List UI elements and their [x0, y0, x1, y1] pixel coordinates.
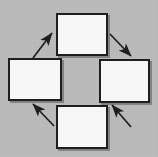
node-box-left[interactable]: [8, 58, 62, 101]
arrow-left-to-top: [33, 33, 52, 58]
arrow-top-to-right: [110, 34, 131, 56]
arrow-bottom-to-left: [33, 104, 54, 126]
arrow-right-to-bottom: [112, 105, 131, 127]
node-label-bottom: [58, 107, 106, 147]
node-box-right[interactable]: [99, 59, 150, 103]
node-label-top: [58, 15, 106, 54]
node-box-bottom[interactable]: [56, 105, 108, 149]
node-box-top[interactable]: [56, 13, 108, 56]
node-label-right: [101, 61, 148, 101]
cycle-diagram: [0, 0, 158, 157]
node-label-left: [10, 60, 60, 99]
